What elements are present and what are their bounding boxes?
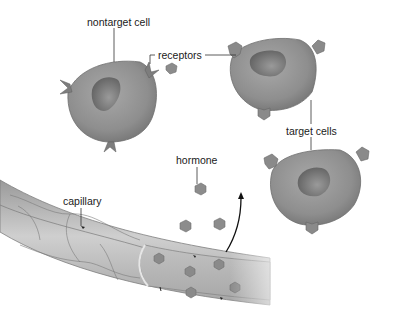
label-hormone: hormone bbox=[176, 155, 217, 166]
label-capillary: capillary bbox=[63, 196, 102, 207]
capillary bbox=[0, 180, 300, 316]
label-receptors: receptors bbox=[158, 50, 202, 61]
label-target-cells: target cells bbox=[286, 126, 337, 137]
hormone-molecules bbox=[166, 63, 225, 232]
nontarget-cell bbox=[60, 61, 159, 152]
target-cell-1 bbox=[228, 38, 325, 120]
target-cell-2 bbox=[264, 147, 369, 234]
label-nontarget-cell: nontarget cell bbox=[87, 17, 150, 28]
